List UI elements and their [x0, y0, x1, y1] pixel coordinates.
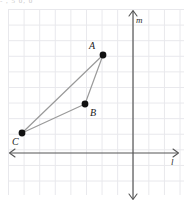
vertex-label-b: B — [90, 108, 96, 118]
plot-canvas — [0, 0, 184, 207]
l-axis-label: l — [171, 158, 174, 167]
vertex-point-a — [100, 52, 107, 59]
vertex-point-b — [82, 101, 89, 108]
coordinate-plane-figure: - , 5 0, 0 A B C m l — [0, 0, 184, 207]
vertex-label-c: C — [12, 137, 19, 147]
m-axis-label: m — [136, 16, 143, 25]
m-axis-group — [129, 11, 137, 200]
vertex-label-a: A — [89, 41, 95, 51]
triangle-abc-group — [19, 52, 107, 137]
l-axis-group — [10, 149, 179, 157]
triangle-abc-outline — [22, 55, 103, 133]
vertex-point-c — [19, 130, 26, 137]
